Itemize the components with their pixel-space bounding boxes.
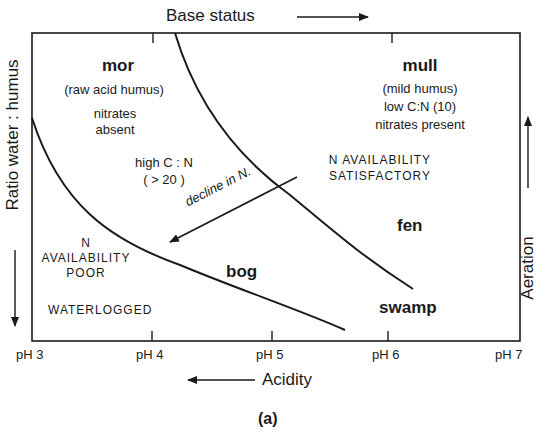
n-poor-line2: AVAILABILITY [36, 251, 136, 266]
mor-title: mor [88, 58, 148, 74]
tick-label-ph7: pH 7 [495, 347, 522, 362]
mull-subtitle: (mild humus) [360, 81, 480, 97]
waterlogged-label: WATERLOGGED [48, 303, 152, 318]
bog-label: bog [226, 262, 257, 282]
top-ticks [153, 33, 392, 43]
mor-cn-line2: ( > 20 ) [124, 172, 204, 188]
fen-label: fen [397, 216, 423, 236]
top-axis-title: Base status [166, 6, 255, 26]
mor-nitrates-line2: absent [80, 122, 150, 138]
mor-cn-line1: high C : N [124, 155, 204, 171]
mor-subtitle: (raw acid humus) [44, 82, 184, 98]
left-axis-title: Ratio water : humus [3, 40, 23, 230]
n-poor-line1: N [36, 236, 136, 251]
tick-label-ph4: pH 4 [136, 347, 163, 362]
tick-label-ph6: pH 6 [372, 347, 399, 362]
n-satisfactory-line1: N AVAILABILITY [315, 153, 445, 168]
tick-label-ph5: pH 5 [256, 347, 283, 362]
mull-title: mull [385, 58, 455, 74]
mull-nitrates: nitrates present [350, 117, 490, 133]
bottom-axis-title: Acidity [262, 370, 312, 390]
tick-label-ph3: pH 3 [16, 347, 43, 362]
right-axis-title: Aeration [518, 228, 538, 308]
waterlogged-boundary-curve [32, 118, 345, 330]
swamp-label: swamp [379, 298, 437, 318]
n-poor-line3: POOR [36, 266, 136, 281]
mull-cn: low C:N (10) [360, 99, 480, 115]
figure-caption: (a) [258, 410, 278, 428]
mor-nitrates-line1: nitrates [80, 106, 150, 122]
bottom-ticks [152, 331, 388, 341]
n-satisfactory-line2: SATISFACTORY [315, 169, 445, 184]
